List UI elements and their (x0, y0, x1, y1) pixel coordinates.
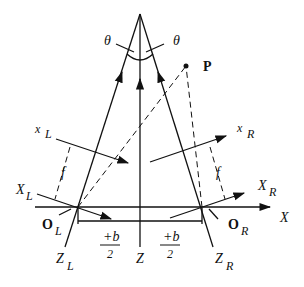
Z-right-label: Z (215, 251, 223, 266)
theta-tick-right (146, 44, 164, 52)
half-baseline-left-den: 2 (107, 247, 113, 261)
point-p (184, 64, 189, 69)
half-baseline-right-num: +b (163, 229, 179, 244)
x-left-sub: L (44, 127, 52, 141)
X-left-sub: L (25, 189, 33, 203)
half-baseline-right-den: 2 (167, 247, 173, 261)
point-p-label: P (203, 59, 212, 74)
O-right-label: O (228, 217, 239, 232)
Z-center-label: Z (136, 251, 144, 266)
X-left-label: X (15, 182, 25, 197)
x-right-label: x (236, 121, 243, 135)
Z-left-label: Z (56, 251, 64, 266)
X-right-label: X (257, 178, 267, 193)
origin-left-tick (59, 209, 71, 215)
stereo-geometry-diagram: θ θ P x L x R f f X L X R O L O R X +b 2… (0, 0, 304, 287)
x-left-label: x (34, 122, 41, 136)
left-optical-axis (65, 14, 140, 247)
X-axis-label: X (279, 210, 289, 225)
theta-right-label: θ (173, 33, 180, 48)
half-baseline-left-num: +b (103, 229, 119, 244)
O-left-label: O (42, 217, 53, 232)
f-left-label: f (61, 165, 67, 180)
x-right-sub: R (246, 127, 255, 141)
O-right-sub: R (240, 224, 249, 238)
Z-left-sub: L (66, 259, 74, 273)
right-image-plane-axis (150, 136, 226, 162)
f-right-label: f (216, 165, 222, 180)
origin-right-tick (209, 209, 218, 219)
theta-left-label: θ (104, 33, 111, 48)
Z-right-sub: R (225, 259, 234, 273)
right-camera-x-axis (170, 193, 244, 218)
ray-left-to-p (78, 66, 186, 207)
O-left-sub: L (54, 224, 62, 238)
X-right-sub: R (268, 185, 277, 199)
theta-tick-left (116, 44, 134, 52)
